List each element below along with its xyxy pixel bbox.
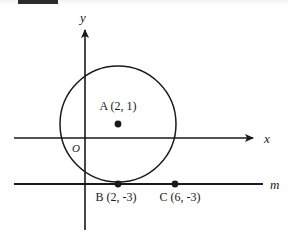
line-m-label: m — [270, 177, 279, 192]
point-C-marker — [172, 181, 179, 188]
point-A-marker — [115, 121, 122, 128]
point-B-label: B (2, -3) — [96, 190, 137, 204]
y-axis-label: y — [78, 10, 86, 25]
point-C-label: C (6, -3) — [160, 190, 201, 204]
coordinate-figure: y x m O A (2, 1) B (2, -3) C (6, -3) — [0, 0, 288, 241]
point-B-marker — [115, 181, 122, 188]
point-A-label: A (2, 1) — [100, 99, 137, 113]
figure-canvas: y x m O A (2, 1) B (2, -3) C (6, -3) — [0, 0, 288, 241]
x-axis-label: x — [263, 131, 270, 146]
origin-label: O — [72, 142, 80, 154]
